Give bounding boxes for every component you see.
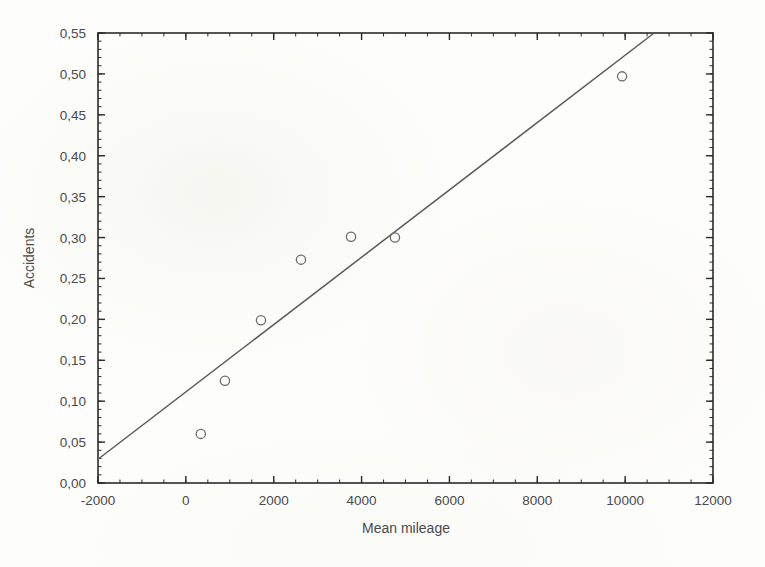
x-tick-label: 0: [182, 493, 190, 508]
data-point-marker: [196, 429, 205, 438]
y-tick-label: 0,05: [60, 435, 86, 450]
regression-line: [98, 33, 654, 459]
y-axis-tick-labels: 0,000,050,100,150,200,250,300,350,400,45…: [60, 26, 86, 491]
x-axis-label: Mean mileage: [362, 520, 450, 536]
x-tick-label: 10000: [606, 493, 644, 508]
y-tick-label: 0,25: [60, 271, 86, 286]
y-axis-label: Accidents: [21, 228, 37, 289]
data-point-marker: [296, 255, 305, 264]
data-point-marker: [617, 72, 626, 81]
data-point-marker: [346, 232, 355, 241]
x-tick-label: 6000: [434, 493, 464, 508]
data-point-markers: [196, 72, 626, 439]
x-axis-ticks: [98, 33, 713, 483]
y-tick-label: 0,20: [60, 312, 86, 327]
y-tick-label: 0,50: [60, 67, 86, 82]
data-point-marker: [256, 316, 265, 325]
y-tick-label: 0,00: [60, 476, 86, 491]
data-point-marker: [390, 233, 399, 242]
plot-canvas: -2000020004000600080001000012000 0,000,0…: [0, 0, 765, 567]
y-axis-ticks: [98, 33, 713, 483]
y-tick-label: 0,35: [60, 190, 86, 205]
y-tick-label: 0,30: [60, 231, 86, 246]
y-tick-label: 0,40: [60, 149, 86, 164]
x-tick-label: 12000: [694, 493, 732, 508]
x-tick-label: 8000: [522, 493, 552, 508]
x-tick-label: -2000: [81, 493, 116, 508]
regression-line-segment: [98, 33, 654, 459]
y-tick-label: 0,55: [60, 26, 86, 41]
y-tick-label: 0,10: [60, 394, 86, 409]
scatter-plot-figure: -2000020004000600080001000012000 0,000,0…: [0, 0, 765, 567]
x-tick-label: 2000: [259, 493, 289, 508]
y-tick-label: 0,15: [60, 353, 86, 368]
x-tick-label: 4000: [347, 493, 377, 508]
data-point-marker: [220, 376, 229, 385]
axes-frame: [98, 33, 713, 483]
y-tick-label: 0,45: [60, 108, 86, 123]
x-axis-tick-labels: -2000020004000600080001000012000: [81, 493, 732, 508]
